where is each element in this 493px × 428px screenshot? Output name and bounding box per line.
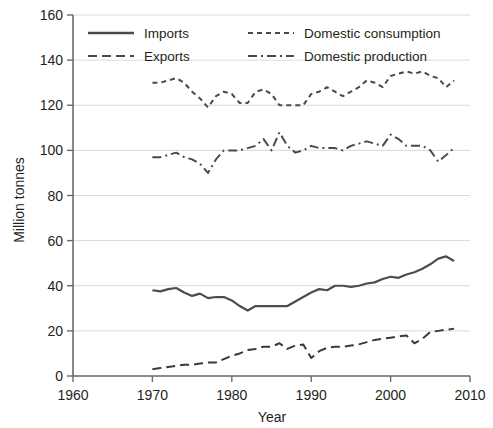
x-tick-label: 1980 (216, 387, 247, 403)
legend-label: Imports (144, 26, 189, 41)
x-tick-label: 2010 (454, 387, 485, 403)
x-tick-label: 1960 (57, 387, 88, 403)
y-tick-label: 80 (47, 188, 63, 204)
x-tick-label: 1970 (137, 387, 168, 403)
y-tick-label: 140 (40, 52, 64, 68)
legend-label: Exports (144, 49, 190, 64)
line-chart: 020406080100120140160 196019701980199020… (0, 0, 493, 428)
y-tick-label: 40 (47, 278, 63, 294)
y-tick-label: 160 (40, 7, 64, 23)
y-tick-label: 100 (40, 142, 64, 158)
x-tick-label: 2000 (375, 387, 406, 403)
chart-container: 020406080100120140160 196019701980199020… (0, 0, 493, 428)
y-tick-label: 0 (55, 368, 63, 384)
legend-label: Domestic production (304, 49, 427, 64)
x-axis-label: Year (258, 409, 287, 425)
y-axis-label: Million tonnes (11, 157, 27, 243)
y-tick-label: 120 (40, 97, 64, 113)
y-tick-label: 20 (47, 323, 63, 339)
y-tick-label: 60 (47, 233, 63, 249)
x-tick-label: 1990 (296, 387, 327, 403)
chart-background (0, 0, 493, 428)
legend-label: Domestic consumption (304, 26, 441, 41)
